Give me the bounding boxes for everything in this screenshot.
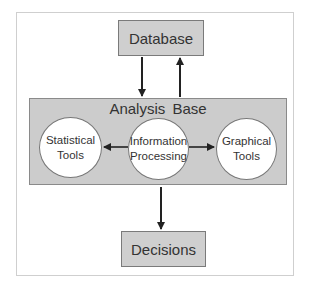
arrows-layer: [0, 0, 311, 287]
